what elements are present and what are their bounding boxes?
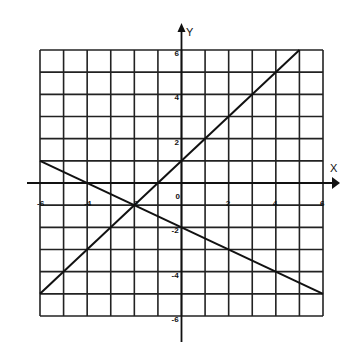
y-axis-label: Y	[186, 26, 194, 38]
y-tick-label: -4	[172, 271, 180, 280]
y-tick-label: 6	[175, 49, 180, 58]
y-tick-label: -2	[172, 226, 180, 235]
x-tick-label: -2	[131, 199, 139, 208]
coordinate-plane: -6-4-20246642-2-4-6 X Y	[0, 0, 356, 360]
x-tick-label: 2	[226, 199, 231, 208]
y-tick-label: -6	[172, 315, 180, 324]
x-tick-label: -4	[84, 199, 92, 208]
x-tick-label: 6	[320, 199, 325, 208]
x-tick-label: -6	[37, 199, 45, 208]
x-axis-arrow-icon	[332, 177, 340, 189]
x-axis-label: X	[330, 162, 338, 174]
y-axis-arrow-icon	[178, 23, 186, 32]
y-tick-label: 2	[175, 138, 180, 147]
x-tick-label: 4	[273, 199, 278, 208]
y-tick-label: 4	[175, 93, 180, 102]
x-tick-label: 0	[176, 192, 181, 201]
series-line	[40, 50, 299, 294]
